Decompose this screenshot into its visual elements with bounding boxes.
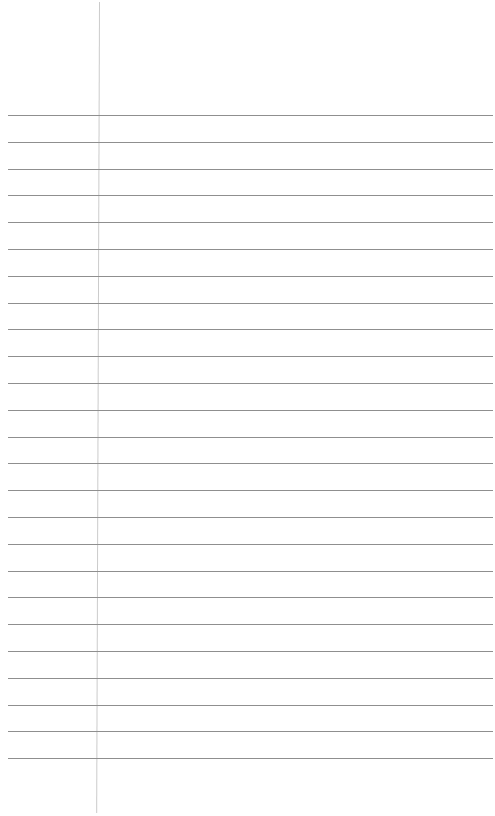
ruled-line: [8, 463, 493, 464]
ruled-line: [8, 705, 493, 706]
ruled-line: [8, 731, 493, 732]
ruled-line: [8, 169, 493, 170]
ruled-line: [8, 195, 493, 196]
ruled-line: [8, 383, 493, 384]
ruled-line: [8, 571, 493, 572]
ruled-line: [8, 115, 493, 116]
ruled-line: [8, 222, 493, 223]
ruled-line: [8, 597, 493, 598]
ruled-line: [8, 678, 493, 679]
ruled-line: [8, 356, 493, 357]
lined-paper-page: [0, 0, 495, 816]
ruled-line: [8, 651, 493, 652]
ruled-line: [8, 276, 493, 277]
ruled-line: [8, 249, 493, 250]
ruled-line: [8, 329, 493, 330]
ruled-line: [8, 490, 493, 491]
margin-line: [96, 2, 100, 813]
ruled-line: [8, 303, 493, 304]
ruled-line: [8, 544, 493, 545]
ruled-line: [8, 758, 493, 759]
ruled-line: [8, 517, 493, 518]
ruled-line: [8, 437, 493, 438]
ruled-line: [8, 142, 493, 143]
ruled-line: [8, 410, 493, 411]
ruled-line: [8, 624, 493, 625]
